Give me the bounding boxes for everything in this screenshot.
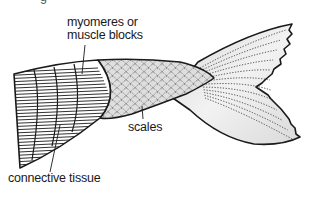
fish-tail-diagram: g myomeres or muscle blocks scales conne… [0,0,312,198]
label-myomeres-line2: muscle blocks [67,29,143,42]
diagram-canvas [0,0,312,198]
label-scales: scales [128,121,162,134]
cut-off-text: g [40,0,47,4]
label-connective-tissue: connective tissue [8,172,101,185]
label-myomeres: myomeres or muscle blocks [67,16,143,42]
myomere-striation [20,164,88,168]
myomeres [14,60,111,168]
